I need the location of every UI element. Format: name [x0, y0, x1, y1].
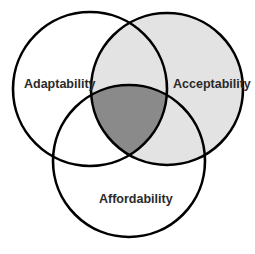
adaptability-label: Adaptability	[24, 77, 96, 91]
acceptability-label: Acceptability	[173, 77, 251, 91]
affordability-label: Affordability	[99, 192, 173, 206]
venn-diagram: Adaptability Acceptability Affordability	[0, 0, 255, 254]
